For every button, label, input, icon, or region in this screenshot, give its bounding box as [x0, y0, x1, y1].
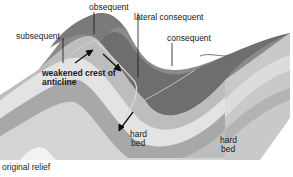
label-consequent: consequent	[167, 34, 211, 43]
label-lateral-consequent: lateral consequent	[134, 13, 203, 22]
figure-caption: original relief	[2, 162, 50, 172]
label-hard-bed-left-line2: bed	[131, 139, 145, 148]
label-hard-bed-right-line2: bed	[221, 145, 235, 154]
label-weakened-crest-line2: anticline	[42, 78, 76, 87]
label-subsequent: subsequent	[16, 32, 60, 41]
folded-strata-diagram	[0, 0, 293, 177]
label-obsequent: obsequent	[89, 3, 129, 12]
